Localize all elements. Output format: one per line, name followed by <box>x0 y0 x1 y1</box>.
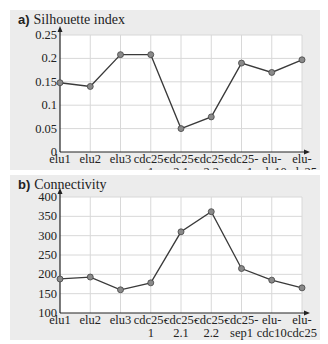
x-tick-label: cdc10 <box>257 326 287 340</box>
data-point-marker <box>178 126 184 132</box>
y-tick-label: 300 <box>38 229 57 243</box>
data-point-marker <box>118 287 124 293</box>
x-tick-label: elu3 <box>110 313 132 327</box>
data-point-marker <box>299 57 305 63</box>
x-tick-label: sep1 <box>230 326 253 340</box>
x-tick-label: 2.1 <box>173 326 189 340</box>
x-tick-label: elu- <box>262 152 281 166</box>
x-tick-label: cdc25- <box>194 152 228 166</box>
x-tick-label: cdc25- <box>164 152 198 166</box>
data-point-marker <box>178 229 184 235</box>
chart-panel-a: a)Silhouette index 00.050.10.150.20.25el… <box>10 10 320 170</box>
x-tick-label: 1 <box>148 326 154 340</box>
data-point-marker <box>299 285 305 291</box>
y-tick-label: 0.1 <box>41 98 57 112</box>
x-tick-label: 1 <box>148 165 154 170</box>
x-tick-label: cdc25- <box>134 313 168 327</box>
x-tick-label: 2.1 <box>173 165 189 170</box>
data-point-marker <box>208 114 214 120</box>
x-tick-label: cdc25- <box>194 313 228 327</box>
data-point-marker <box>269 277 275 283</box>
x-tick-label: sep1 <box>230 165 253 170</box>
x-tick-label: elu2 <box>79 313 101 327</box>
y-tick-label: 0.05 <box>35 122 57 136</box>
x-tick-label: cdc25- <box>224 152 258 166</box>
x-tick-label: cdc25- <box>134 152 168 166</box>
data-point-marker <box>148 52 154 58</box>
y-tick-label: 200 <box>38 267 57 281</box>
y-tick-label: 350 <box>38 209 57 223</box>
data-point-marker <box>239 266 245 272</box>
y-axis-arrow-icon <box>58 188 63 194</box>
x-tick-label: cdc25 <box>287 326 317 340</box>
x-tick-label: cdc25 <box>287 165 317 170</box>
data-point-marker <box>118 52 124 58</box>
data-point-marker <box>269 69 275 75</box>
data-point-marker <box>87 83 93 89</box>
data-point-marker <box>148 280 154 286</box>
data-point-marker <box>57 80 63 86</box>
data-point-marker <box>57 276 63 282</box>
x-tick-label: 2.2 <box>203 326 219 340</box>
y-tick-label: 0.15 <box>35 75 57 89</box>
x-tick-label: elu- <box>292 313 311 327</box>
x-tick-label: elu- <box>292 152 311 166</box>
x-tick-label: elu1 <box>49 152 71 166</box>
data-point-marker <box>239 60 245 66</box>
y-axis-arrow-icon <box>58 26 63 32</box>
silhouette-line-chart: 00.050.10.150.20.25elu1elu2elu3cdc25-1cd… <box>10 10 320 170</box>
y-tick-label: 400 <box>38 190 57 204</box>
data-point-marker <box>87 274 93 280</box>
x-tick-label: 2.2 <box>203 165 219 170</box>
x-tick-label: cdc25- <box>164 313 198 327</box>
y-tick-label: 0.25 <box>35 28 57 42</box>
x-tick-label: cdc10 <box>257 165 287 170</box>
y-tick-label: 150 <box>38 287 57 301</box>
x-tick-label: elu- <box>262 313 281 327</box>
x-tick-label: elu1 <box>49 313 71 327</box>
y-tick-label: 0.2 <box>41 51 57 65</box>
y-tick-label: 250 <box>38 248 57 262</box>
chart-panel-b: b)Connectivity 100150200250300350400elu1… <box>10 175 320 340</box>
x-tick-label: cdc25- <box>224 313 258 327</box>
data-point-marker <box>208 209 214 215</box>
x-tick-label: elu2 <box>79 152 101 166</box>
x-tick-label: elu3 <box>110 152 132 166</box>
connectivity-line-chart: 100150200250300350400elu1elu2elu3cdc25-1… <box>10 175 320 340</box>
